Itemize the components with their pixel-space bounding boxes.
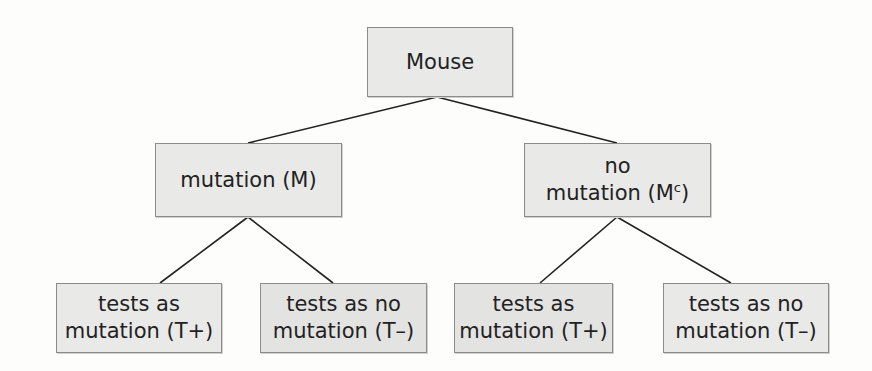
node-label-line1: tests as — [98, 291, 180, 318]
node-label-line2: mutation (T+) — [65, 318, 214, 345]
edge-mutation-tminus — [248, 217, 333, 283]
complement-superscript: c — [674, 180, 681, 195]
node-mutation: mutation (M) — [155, 143, 342, 217]
edge-mouse-mutation — [248, 97, 437, 143]
node-label-line2: mutation (Mc) — [546, 180, 689, 207]
node-label-line1: tests as no — [286, 291, 401, 318]
node-label-line2: mutation (T+) — [459, 318, 608, 345]
node-label: mutation (M) — [180, 167, 316, 194]
node-no-mutation: no mutation (Mc) — [524, 143, 711, 217]
node-mutation-tests-negative: tests as no mutation (T–) — [260, 283, 427, 353]
node-no-mutation-tests-negative: tests as no mutation (T–) — [663, 283, 829, 353]
node-no-mutation-tests-positive: tests as mutation (T+) — [454, 283, 613, 353]
edge-mutation-tplus — [160, 217, 248, 283]
node-mouse: Mouse — [367, 27, 513, 97]
node-label: Mouse — [406, 49, 474, 76]
node-mutation-tests-positive: tests as mutation (T+) — [56, 283, 222, 353]
node-label-line1: tests as no — [689, 291, 804, 318]
edge-mouse-no-mutation — [437, 97, 617, 143]
node-label-line1: no — [604, 153, 630, 180]
edge-nomutation-tplus — [540, 217, 617, 283]
node-label-line2: mutation (T–) — [675, 318, 816, 345]
node-label-line2: mutation (T–) — [273, 318, 414, 345]
node-label-line1: tests as — [493, 291, 575, 318]
edge-nomutation-tminus — [617, 217, 731, 283]
